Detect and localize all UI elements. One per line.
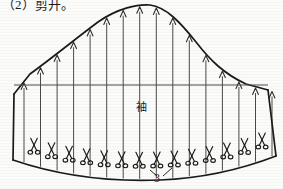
scissors-icon: [203, 147, 215, 163]
scissors-icon: [46, 143, 58, 159]
figure-page: （2）剪开。 袖 3: [0, 0, 283, 189]
slash-lines-group: [21, 7, 275, 179]
sleeve-cap-curve: [14, 5, 268, 94]
scissors-icon: [98, 151, 110, 167]
scissors-icon: [116, 152, 128, 168]
left-side-seam: [13, 94, 14, 160]
sleeve-piece-label: 袖: [136, 98, 147, 114]
pattern-outline-group: [13, 5, 276, 181]
scissors-icon: [81, 149, 93, 165]
scissors-icon: [186, 149, 198, 165]
scissors-icon: [239, 138, 251, 154]
segment-number-label: 3: [154, 171, 160, 186]
leader-line: [163, 168, 172, 176]
sleeve-pattern-diagram: [0, 0, 283, 189]
scissors-icons-group: [28, 133, 268, 168]
scissors-icon: [168, 151, 180, 167]
scissors-icon: [256, 133, 268, 149]
scissors-icon: [28, 138, 40, 154]
